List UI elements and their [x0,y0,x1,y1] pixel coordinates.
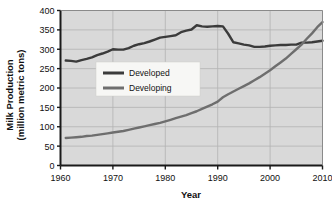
milk-production-line-chart: 050100150200250300350400 196019701980199… [0,0,332,205]
chart-figure: 050100150200250300350400 196019701980199… [0,0,332,205]
x-tick-label: 1990 [208,173,228,183]
y-tick-label: 150 [39,103,54,113]
y-tick-label: 200 [39,83,54,93]
y-axis-title-line2: (million metric tons) [15,50,26,141]
x-tick-label: 1980 [155,173,175,183]
x-tick-label: 2000 [260,173,280,183]
y-tick-label: 300 [39,45,54,55]
y-tick-label: 400 [39,6,54,16]
y-tick-label: 100 [39,122,54,132]
y-tick-label: 350 [39,25,54,35]
legend-label-developed: Developed [129,68,170,78]
chart-legend: Developed Developing [96,62,200,96]
legend-label-developing: Developing [129,83,172,93]
x-tick-label: 1960 [50,173,70,183]
y-axis-title-line1: Milk Production [4,59,15,130]
y-tick-label: 50 [44,142,54,152]
y-tick-label: 250 [39,64,54,74]
y-tick-label: 0 [49,161,54,171]
x-tick-label: 1970 [103,173,123,183]
x-tick-label: 2010 [312,173,332,183]
x-axis-title: Year [181,189,201,200]
